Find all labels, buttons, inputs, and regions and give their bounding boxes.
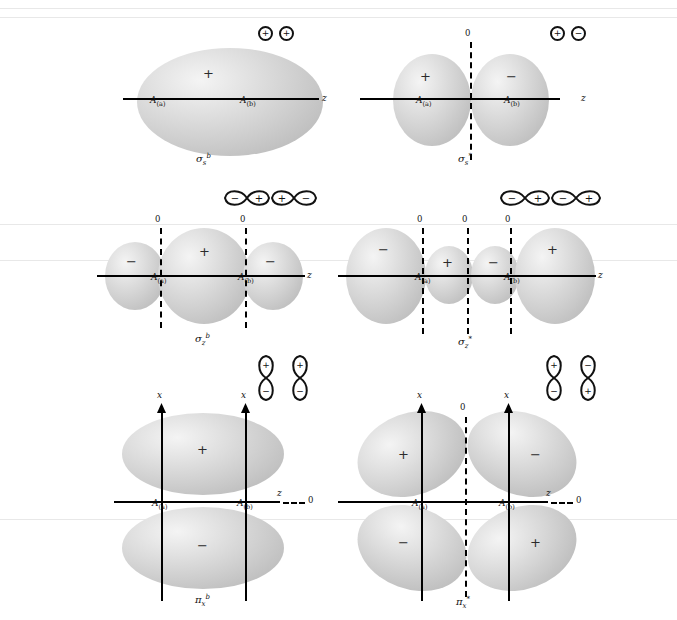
z-axis-line [338, 275, 596, 277]
mo-label: σs* [458, 152, 472, 167]
node-marker: 0 [462, 214, 467, 224]
lobe-sign: + [530, 535, 541, 550]
svg-text:+: + [550, 360, 558, 370]
nodal-plane-horizontal [283, 502, 305, 504]
mo-label: σsb [196, 152, 211, 167]
nodal-plane [465, 417, 467, 597]
x-axis-label: x [241, 390, 246, 400]
svg-text:+: + [296, 360, 304, 370]
lobe-sign: + [197, 442, 208, 457]
svg-text:−: − [508, 193, 516, 204]
lobe-sign: − [530, 447, 541, 462]
s-orbital-sign: + [554, 29, 562, 38]
s-orbital-icon: − [571, 26, 586, 41]
svg-text:−: − [296, 386, 304, 396]
mo-label: σz* [458, 335, 472, 350]
node-marker: 0 [155, 214, 160, 224]
p-orbital-icon-vertical: − + [577, 355, 599, 401]
p-orbital-icon-horizontal: − + [500, 188, 550, 208]
ao-icon-group: − + + − [224, 188, 317, 208]
mo-label: πxb [195, 593, 210, 608]
x-axis-label: x [157, 390, 162, 400]
p-orbital-icon-vertical: + − [543, 355, 565, 401]
p-orbital-icon-vertical: + − [255, 355, 277, 401]
svg-text:+: + [584, 386, 592, 396]
lobe-sign: + [398, 447, 409, 462]
atom-label-a: A(a) [412, 498, 427, 511]
svg-text:−: − [262, 386, 270, 396]
lobe-sign: − [197, 538, 208, 553]
p-orbital-icon-horizontal: − + [551, 188, 601, 208]
x-axis-arrowhead [416, 403, 427, 413]
svg-text:−: − [302, 193, 310, 204]
p-orbital-icon-vertical: + − [289, 355, 311, 401]
atom-label-a: A(a) [150, 95, 165, 108]
lobe-sign: − [488, 255, 499, 270]
svg-text:+: + [534, 193, 542, 204]
node-marker: 0 [417, 214, 422, 224]
svg-text:−: − [584, 360, 592, 370]
panel-sigma-z-antibonding: − + − + − + − + 0 0 0 A(a) A(b) z σz* [338, 180, 677, 355]
x-axis-label: x [504, 390, 509, 400]
lobe-sign: + [199, 244, 210, 259]
svg-text:+: + [585, 193, 593, 204]
atom-label-a: A(a) [151, 272, 166, 285]
p-orbital-icon-horizontal: + − [271, 188, 317, 208]
node-marker: 0 [308, 495, 313, 505]
orbital-lobe [455, 396, 588, 511]
lobe-sign: − [378, 242, 389, 257]
node-marker: 0 [576, 495, 581, 505]
atom-label-b: A(b) [499, 498, 515, 511]
z-axis-label: z [598, 270, 603, 280]
panel-pi-x-bonding: + − + − + − x x 0 A(a) A(b) z πxb [0, 355, 338, 620]
svg-text:+: + [262, 360, 270, 370]
panel-sigma-z-bonding: − + + − − + − 0 0 A(a) A(b) z σzb [0, 180, 338, 355]
z-axis-label: z [277, 488, 282, 498]
z-axis-label: z [546, 488, 551, 498]
orbital-lobe [455, 490, 588, 605]
x-axis-arrowhead [240, 403, 251, 413]
x-axis-label: x [417, 390, 422, 400]
lobe-sign: − [398, 535, 409, 550]
svg-text:−: − [559, 193, 567, 204]
node-marker: 0 [465, 28, 470, 38]
nodal-plane [470, 42, 472, 160]
nodal-plane [467, 228, 469, 334]
panel-sigma-s-antibonding: + − + − 0 A(a) A(b) z σs* [338, 0, 677, 180]
ao-icon-group: + − − + [543, 355, 599, 401]
s-orbital-icon: + [550, 26, 565, 41]
orbital-lobe [393, 54, 471, 146]
atom-label-b: A(b) [238, 272, 254, 285]
x-axis-arrowhead [156, 403, 167, 413]
z-axis-line [97, 275, 305, 277]
lobe-sign: − [265, 254, 276, 269]
p-orbital-icon-horizontal: − + [224, 188, 270, 208]
z-axis-label: z [307, 270, 312, 280]
s-orbital-sign: − [575, 29, 583, 38]
node-marker: 0 [240, 214, 245, 224]
lobe-sign: + [203, 66, 214, 81]
s-orbital-sign: + [283, 29, 291, 38]
z-axis-label: z [322, 93, 327, 103]
s-orbital-sign: + [262, 29, 270, 38]
atom-label-b: A(b) [237, 498, 253, 511]
ao-icon-group: − + − + [500, 188, 601, 208]
atom-label-a: A(a) [416, 95, 431, 108]
lobe-sign: + [442, 255, 453, 270]
ao-icon-group: + − [550, 26, 586, 41]
ao-icon-group: + − + − [255, 355, 311, 401]
atom-label-a: A(a) [152, 498, 167, 511]
lobe-sign: − [126, 254, 137, 269]
z-axis-line [338, 501, 548, 503]
panel-pi-x-antibonding: + − − + + − − + 0 x x 0 A(a) A(b) z πx* [338, 355, 677, 620]
svg-text:−: − [550, 386, 558, 396]
x-axis-arrowhead [503, 403, 514, 413]
node-marker: 0 [460, 402, 465, 412]
z-axis-label: z [581, 93, 586, 103]
svg-text:+: + [255, 193, 263, 204]
node-marker: 0 [505, 214, 510, 224]
s-orbital-icon: + [279, 26, 294, 41]
lobe-sign: + [547, 242, 558, 257]
nodal-plane-horizontal [551, 502, 573, 504]
atom-label-b: A(b) [504, 272, 520, 285]
